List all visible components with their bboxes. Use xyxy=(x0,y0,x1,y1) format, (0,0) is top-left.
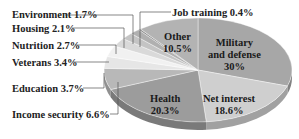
label-other: Other 10.5% xyxy=(163,31,192,55)
label-health-value: 20.3% xyxy=(150,105,180,117)
label-veterans: Veterans 3.4% xyxy=(12,57,78,68)
label-other-name: Other xyxy=(163,31,192,43)
label-job-training: Job training 0.4% xyxy=(172,7,253,18)
label-nutrition: Nutrition 2.7% xyxy=(12,40,80,51)
label-health: Health 20.3% xyxy=(150,93,180,117)
label-net-interest-value: 18.6% xyxy=(203,105,255,117)
label-net-interest-name: Net interest xyxy=(203,93,255,105)
pie-slices xyxy=(104,18,292,122)
label-military-name-2: and defense xyxy=(208,49,261,61)
label-housing: Housing 2.1% xyxy=(12,23,76,34)
label-education: Education 3.7% xyxy=(12,83,84,94)
label-military: Military and defense 30% xyxy=(208,37,261,73)
label-environment: Environment 1.7% xyxy=(12,9,98,20)
label-health-name: Health xyxy=(150,93,180,105)
label-military-name-1: Military xyxy=(208,37,261,49)
label-income-security: Income security 6.6% xyxy=(12,109,110,120)
label-net-interest: Net interest 18.6% xyxy=(203,93,255,117)
label-other-value: 10.5% xyxy=(163,43,192,55)
leader-education xyxy=(83,73,104,88)
label-military-value: 30% xyxy=(208,61,261,73)
